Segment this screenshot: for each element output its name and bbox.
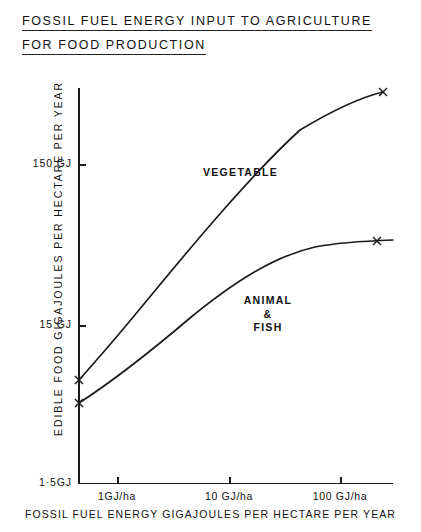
animal-fish-startpoint-x-marker — [75, 399, 83, 407]
series-label-animal: ANIMAL — [228, 294, 308, 308]
series-vegetable — [75, 88, 387, 384]
series-label-ampersand: & — [228, 308, 308, 322]
series-label-fish: FISH — [228, 321, 308, 335]
series-label-animal-fish: ANIMAL & FISH — [228, 294, 308, 335]
figure-chart: FOSSIL FUEL ENERGY INPUT TO AGRICULTURE … — [0, 0, 421, 532]
series-label-vegetable: VEGETABLE — [203, 166, 278, 178]
vegetable-curve — [79, 92, 383, 380]
plot-area — [0, 0, 421, 532]
vegetable-startpoint-x-marker — [75, 376, 83, 384]
